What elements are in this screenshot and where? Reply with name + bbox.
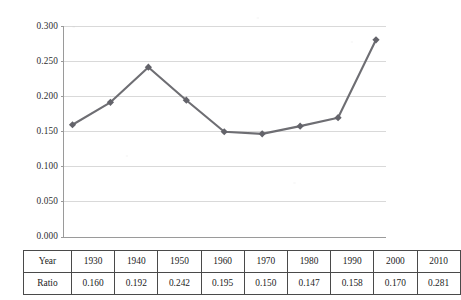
table-cell-ratio: 0.195	[201, 273, 244, 295]
table-cell-year: 1990	[331, 251, 374, 273]
table-cell-ratio: 0.147	[287, 273, 330, 295]
table-row: Ratio0.1600.1920.2420.1950.1500.1470.158…	[24, 273, 461, 295]
table-cell-year: 2010	[417, 251, 460, 273]
table-row-header: Ratio	[24, 273, 72, 295]
table-cell-ratio: 0.150	[244, 273, 287, 295]
table-row: Year193019401950196019701980199020002010	[24, 251, 461, 273]
table-cell-ratio: 0.160	[72, 273, 115, 295]
table-cell-year: 1980	[287, 251, 330, 273]
plot-svg: 1930: 0.1601940: 0.1921950: 0.2421960: 0…	[0, 0, 409, 246]
data-point-marker: 2000: 0.170	[334, 114, 341, 121]
data-table-region: Year193019401950196019701980199020002010…	[23, 250, 390, 295]
series-line-ratio	[73, 40, 377, 134]
table-cell-ratio: 0.158	[331, 273, 374, 295]
chart-area: 0.0000.0500.1000.1500.2000.2500.300 1930…	[0, 0, 409, 246]
table-cell-ratio: 0.281	[417, 273, 460, 295]
table-cell-ratio: 0.170	[374, 273, 417, 295]
data-table: Year193019401950196019701980199020002010…	[23, 250, 461, 295]
table-cell-ratio: 0.242	[158, 273, 201, 295]
table-cell-year: 1940	[115, 251, 158, 273]
series-markers: 1930: 0.1601940: 0.1921950: 0.2421960: 0…	[69, 36, 380, 137]
table-cell-year: 1970	[244, 251, 287, 273]
table-row-header: Year	[24, 251, 72, 273]
table-cell-year: 2000	[374, 251, 417, 273]
table-cell-year: 1950	[158, 251, 201, 273]
table-cell-year: 1960	[201, 251, 244, 273]
table-cell-ratio: 0.192	[115, 273, 158, 295]
data-point-marker: 2010: 0.281	[372, 36, 379, 43]
table-cell-year: 1930	[72, 251, 115, 273]
data-point-marker: 1990: 0.158	[297, 123, 304, 130]
